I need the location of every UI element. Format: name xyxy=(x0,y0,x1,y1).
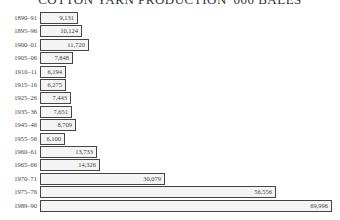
bar: 10,124 xyxy=(40,25,82,37)
value-label: 7,443 xyxy=(52,93,67,103)
bar: 7,651 xyxy=(40,106,72,118)
bar: 69,996 xyxy=(40,200,332,212)
bar-row: 1970–7130,079 xyxy=(0,173,340,185)
bar-row: 1955–566,100 xyxy=(0,133,340,145)
value-label: 8,709 xyxy=(57,120,72,130)
category-label: 1965–66 xyxy=(0,159,37,171)
category-label: 1935–36 xyxy=(0,106,37,118)
value-label: 6,194 xyxy=(47,67,62,77)
bar-row: 1915–166,275 xyxy=(0,79,340,91)
value-label: 69,996 xyxy=(310,201,328,211)
value-label: 14,326 xyxy=(78,160,96,170)
value-label: 13,733 xyxy=(75,147,93,157)
bar-row: 1895–9610,124 xyxy=(0,25,340,37)
value-label: 6,275 xyxy=(47,80,62,90)
bar: 6,194 xyxy=(40,66,66,78)
category-label: 1989–90 xyxy=(0,200,37,212)
category-label: 1925–26 xyxy=(0,92,37,104)
bar-row: 1965–6614,326 xyxy=(0,159,340,171)
bar: 30,079 xyxy=(40,173,165,185)
value-label: 30,079 xyxy=(143,174,161,184)
category-label: 1895–96 xyxy=(0,25,37,37)
category-label: 1975–76 xyxy=(0,186,37,198)
bar-row: 1905–067,848 xyxy=(0,52,340,64)
value-label: 10,124 xyxy=(60,26,78,36)
category-label: 1890–91 xyxy=(0,12,37,24)
bar-row: 1910–116,194 xyxy=(0,66,340,78)
category-label: 1905–06 xyxy=(0,52,37,64)
bar: 9,131 xyxy=(40,12,78,24)
category-label: 1910–11 xyxy=(0,66,37,78)
bar-row: 1925–267,443 xyxy=(0,92,340,104)
bar-row: 1960–6113,733 xyxy=(0,146,340,158)
bar-row: 1945–468,709 xyxy=(0,119,340,131)
category-label: 1900–01 xyxy=(0,39,37,51)
chart-title: COTTON YARN PRODUCTION '000 BALES xyxy=(0,0,340,8)
category-label: 1970–71 xyxy=(0,173,37,185)
value-label: 7,848 xyxy=(54,53,69,63)
category-label: 1915–16 xyxy=(0,79,37,91)
value-label: 9,131 xyxy=(59,13,74,23)
bar: 7,443 xyxy=(40,92,71,104)
bar: 6,100 xyxy=(40,133,65,145)
bar: 7,848 xyxy=(40,52,73,64)
bar-row: 1900–0111,720 xyxy=(0,39,340,51)
value-label: 56,556 xyxy=(254,187,272,197)
value-label: 7,651 xyxy=(53,107,68,117)
bar: 56,556 xyxy=(40,186,276,198)
value-label: 11,720 xyxy=(67,40,85,50)
bar: 8,709 xyxy=(40,119,76,131)
bar: 11,720 xyxy=(40,39,89,51)
category-label: 1960–61 xyxy=(0,146,37,158)
bar-row: 1989–9069,996 xyxy=(0,200,340,212)
bar: 13,733 xyxy=(40,146,97,158)
category-label: 1955–56 xyxy=(0,133,37,145)
value-label: 6,100 xyxy=(46,134,61,144)
bar: 14,326 xyxy=(40,159,100,171)
bar-row: 1935–367,651 xyxy=(0,106,340,118)
category-label: 1945–46 xyxy=(0,119,37,131)
bar-row: 1890–919,131 xyxy=(0,12,340,24)
bar-row: 1975–7656,556 xyxy=(0,186,340,198)
bar: 6,275 xyxy=(40,79,66,91)
